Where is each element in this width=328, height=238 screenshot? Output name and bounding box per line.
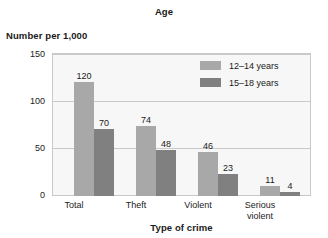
- bar-total-15-18: 70: [94, 129, 114, 196]
- x-tick-label-violent: Violent: [163, 200, 233, 211]
- y-tick-label-50: 50: [35, 143, 45, 153]
- bar-violent-15-18: 23: [218, 174, 238, 196]
- y-tick-label-150: 150: [30, 49, 45, 59]
- bar-value-serious-violent-15-18: 4: [278, 181, 302, 191]
- legend-item-12-14-years: 12–14 years: [200, 57, 279, 74]
- y-tick-label-100: 100: [30, 96, 45, 106]
- legend: 12–14 years 15–18 years: [200, 57, 279, 91]
- legend-item-15-18-years: 15–18 years: [200, 74, 279, 91]
- bar-value-total-12-14: 120: [72, 71, 96, 81]
- x-tick-label-total-line1: Total: [39, 200, 109, 211]
- x-tick-label-violent-line1: Violent: [163, 200, 233, 211]
- x-axis-label: Type of crime: [52, 222, 311, 233]
- bar-serious-violent-15-18: 4: [280, 192, 300, 196]
- y-axis-label: Number per 1,000: [6, 30, 87, 41]
- bar-value-theft-12-14: 74: [134, 115, 158, 125]
- x-tick-label-total: Total: [39, 200, 109, 211]
- x-tick-label-serious-violent-line2: violent: [225, 211, 295, 222]
- bar-value-violent-15-18: 23: [216, 163, 240, 173]
- bar-total-12-14: 120: [74, 82, 94, 196]
- bar-theft-12-14: 74: [136, 126, 156, 197]
- x-tick-label-theft: Theft: [101, 200, 171, 211]
- bar-serious-violent-12-14: 11: [260, 186, 280, 197]
- bar-theft-15-18: 48: [156, 150, 176, 196]
- bar-value-total-15-18: 70: [92, 118, 116, 128]
- x-tick-label-theft-line1: Theft: [101, 200, 171, 211]
- y-tick-label-0: 0: [40, 190, 45, 200]
- bar-chart: Age Number per 1,000 150 100 50 0 120 70…: [0, 0, 328, 238]
- bar-group-total: 120 70: [74, 53, 114, 196]
- bar-value-violent-12-14: 46: [196, 141, 220, 151]
- legend-swatch-15-18-years: [200, 78, 221, 87]
- legend-label-12-14-years: 12–14 years: [229, 61, 279, 71]
- legend-swatch-12-14-years: [200, 61, 221, 70]
- x-tick-label-serious-violent-line1: Serious: [225, 200, 295, 211]
- x-tick-label-serious-violent: Serious violent: [225, 200, 295, 221]
- bar-group-theft: 74 48: [136, 53, 176, 196]
- bar-value-theft-15-18: 48: [154, 139, 178, 149]
- legend-label-15-18-years: 15–18 years: [229, 78, 279, 88]
- chart-title: Age: [0, 6, 328, 17]
- bar-violent-12-14: 46: [198, 152, 218, 196]
